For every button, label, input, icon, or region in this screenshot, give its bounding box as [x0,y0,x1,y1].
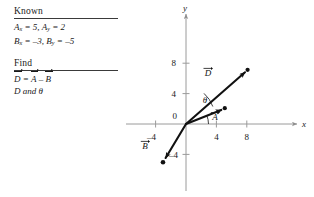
vector-B-symbol: B [46,73,52,85]
vector-B-label-group: B [141,140,150,151]
vector-A-endpoint-dot [223,106,227,110]
minus-sign: – [39,74,44,84]
vector-B-endpoint-dot [161,160,166,165]
vector-D-label-arrowhead [211,67,213,70]
vector-D-label: D [204,68,212,78]
figure-root: Known Ax = 5, Ay = 2 Bx = –3, By = –5 Fi… [0,0,314,197]
vector-B-label: B [142,141,148,151]
find-heading: Find [14,58,126,70]
x-ticklabel-8: 8 [245,132,250,142]
angle-theta-label: θ [203,95,208,105]
y-ticklabel-4: 4 [172,89,177,99]
x-axis-label: x [301,119,306,129]
known-heading: Known [14,6,126,18]
known-A-text: Ax = 5, Ay = 2 [14,22,65,32]
y-axis-label: y [182,3,187,13]
known-divider [14,18,118,19]
origin-label: 0 [173,111,178,121]
known-B-text: Bx = –3, By = –5 [14,36,74,46]
find-unknowns: D and θ [14,85,126,97]
x-ticklabel-4: 4 [214,132,219,142]
known-line-B: Bx = –3, By = –5 [14,35,126,49]
vector-A-symbol: A [31,73,37,85]
plot-svg: x y –4 4 8 4 8 –4 0 [126,0,314,197]
find-equation: D = A – B [14,73,126,85]
equals-sign: = [23,74,29,84]
vector-D-endpoint-dot [246,68,250,72]
vector-plot: x y –4 4 8 4 8 –4 0 [126,0,314,197]
y-ticklabel-8: 8 [172,58,177,68]
find-unknowns-text: D and θ [14,86,43,96]
vector-D-symbol: D [14,73,21,85]
vector-A-label: A [211,112,218,122]
vector-D-label-group: D [204,67,214,78]
known-line-A: Ax = 5, Ay = 2 [14,21,126,35]
vector-A-label-group: A [211,111,220,122]
problem-panel: Known Ax = 5, Ay = 2 Bx = –3, By = –5 Fi… [14,6,126,97]
panel-spacer [14,49,126,58]
